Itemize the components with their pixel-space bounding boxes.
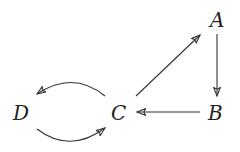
edge-c-a <box>136 35 200 96</box>
node-c: C <box>111 101 126 125</box>
node-b: B <box>207 101 223 125</box>
node-d: D <box>12 101 29 125</box>
edge-d-c <box>37 128 105 141</box>
node-a: A <box>208 8 224 32</box>
graph-diagram: A B C D <box>0 0 240 152</box>
edge-c-d <box>37 82 105 96</box>
